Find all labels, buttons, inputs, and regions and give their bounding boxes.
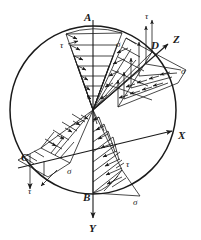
stress-distribution-figure: X Y Z A B C D τ σ τ σ σ τ τ σ: [0, 0, 201, 240]
stress-label-tau-upper-left: τ: [60, 41, 63, 50]
axis-label-x: X: [178, 130, 185, 141]
stress-label-sigma-right: σ: [181, 67, 185, 76]
point-label-b: B: [83, 192, 90, 203]
wedge-lower-right: [93, 110, 122, 193]
stress-label-tau-upper-right: τ: [145, 12, 148, 21]
stress-label-tau-lower-right: τ: [126, 160, 129, 169]
wedge-lower-left-arrows: [49, 115, 88, 146]
wedge-top: [66, 29, 122, 110]
figure-drawing: [0, 0, 201, 240]
stress-label-sigma-upper-mid: σ: [116, 40, 120, 49]
stress-label-sigma-bottom: σ: [133, 198, 137, 207]
stress-label-sigma-lower-left: σ: [67, 167, 71, 176]
axis-label-z: Z: [173, 34, 180, 45]
tau-leader-upper-left: [68, 41, 78, 44]
wedge-lower-left: [41, 110, 93, 163]
point-label-d: D: [151, 40, 159, 51]
point-label-c: C: [21, 152, 28, 163]
point-label-a: A: [84, 12, 91, 23]
axis-label-y: Y: [89, 223, 96, 234]
axis-line-x: [18, 131, 172, 168]
stress-label-tau-lower-left: τ: [28, 187, 31, 196]
